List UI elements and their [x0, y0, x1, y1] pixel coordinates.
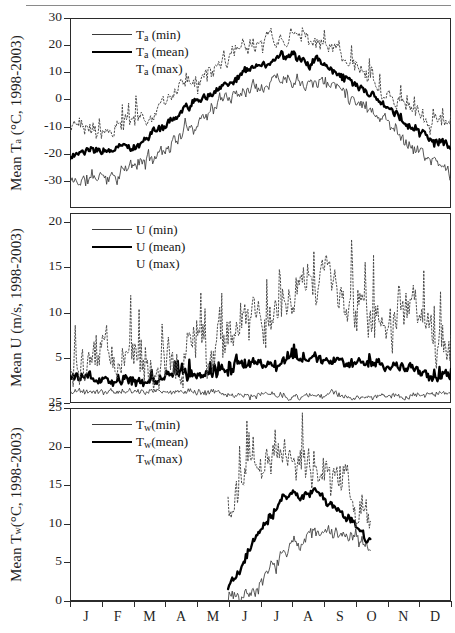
y-tick-label: -20	[26, 145, 62, 161]
legend-label-mean: Tw(mean)	[136, 434, 188, 450]
y-tick-label: 10	[26, 515, 62, 531]
legend-ta: Ta (min)Ta (mean)Ta (max)	[92, 27, 188, 78]
legend-label-mean: Ta (mean)	[136, 44, 188, 60]
legend-swatch-min-icon	[92, 424, 132, 425]
y-tick-label: 0	[26, 90, 62, 106]
panel-air-temperature: Ta (min)Ta (mean)Ta (max)	[70, 18, 451, 208]
legend-entry-max: U (max)	[92, 256, 185, 271]
x-month-label-3: M	[143, 609, 155, 625]
x-month-label-7: J	[274, 609, 279, 625]
y-tick-label: -30	[26, 172, 62, 188]
x-tick-mark	[102, 601, 103, 607]
x-tick-mark	[197, 601, 198, 607]
y-tick-label: 5	[26, 553, 62, 569]
legend-label-mean: U (mean)	[136, 239, 185, 255]
series-line-thin	[70, 388, 451, 401]
legend-label-subscript: w	[144, 456, 151, 467]
legend-swatch-mean-icon	[92, 441, 132, 443]
y-tick-label: -10	[26, 118, 62, 134]
legend-label-min: Tw(min)	[136, 417, 180, 433]
legend-label-subscript: a	[144, 66, 148, 77]
legend-label-min: U (min)	[136, 222, 178, 238]
legend-label-subscript: a	[144, 49, 148, 60]
y-tick-label: 20	[26, 438, 62, 454]
legend-entry-mean: Tw(mean)	[92, 434, 188, 449]
y-tick-label: 20	[26, 36, 62, 52]
y-axis-label-tw: Mean Tw(°C, 1998-2003)	[8, 408, 26, 601]
legend-label-subscript: w	[144, 439, 151, 450]
legend-entry-max: Ta (max)	[92, 61, 188, 76]
legend-entry-min: Ta (min)	[92, 27, 188, 42]
x-month-label-12: D	[430, 609, 440, 625]
series-line-thin	[70, 74, 451, 186]
legend-label-max: Tw(max)	[136, 451, 182, 467]
x-month-label-9: S	[336, 609, 344, 625]
legend-tw: Tw(min)Tw(mean)Tw(max)	[92, 417, 188, 468]
x-axis: JFMAMJJASOND	[70, 601, 451, 633]
x-tick-mark	[419, 601, 420, 607]
series-line-thick	[228, 488, 370, 589]
x-tick-mark	[134, 601, 135, 607]
y-axis-label-subscript: a	[12, 139, 23, 144]
series-line-thick	[70, 345, 451, 386]
panel-water-temperature: Tw(min)Tw(mean)Tw(max)	[70, 408, 451, 601]
y-axis-label-u: Mean U (m/s, 1998-2003)	[8, 213, 26, 403]
x-month-label-10: O	[367, 609, 377, 625]
y-tick-label: 5	[26, 349, 62, 365]
legend-entry-min: U (min)	[92, 222, 185, 237]
x-tick-mark	[292, 601, 293, 607]
legend-label-min: Ta (min)	[136, 27, 181, 43]
top-horizontal-rule	[26, 5, 451, 6]
x-month-label-1: J	[83, 609, 88, 625]
x-tick-mark	[356, 601, 357, 607]
x-month-label-8: A	[303, 609, 313, 625]
legend-u: U (min)U (mean)U (max)	[92, 222, 185, 273]
y-tick-label: 25	[26, 399, 62, 415]
x-month-label-4: A	[176, 609, 186, 625]
y-axis-label-ta: Mean Ta (°C, 1998-2003)	[8, 18, 26, 208]
x-tick-mark	[229, 601, 230, 607]
legend-label-max: Ta (max)	[136, 61, 183, 77]
y-tick-label: 15	[26, 258, 62, 274]
legend-entry-min: Tw(min)	[92, 417, 188, 432]
x-tick-mark	[324, 601, 325, 607]
x-tick-mark	[70, 601, 71, 607]
y-tick-label: 30	[26, 9, 62, 25]
x-tick-mark	[261, 601, 262, 607]
y-tick-label: 20	[26, 213, 62, 229]
y-tick-label: 10	[26, 63, 62, 79]
panel-wind-speed: U (min)U (mean)U (max)	[70, 213, 451, 403]
figure-container: Mean Ta (°C, 1998-2003) 3020100-10-20-30…	[0, 0, 455, 633]
legend-label-subscript: w	[144, 422, 151, 433]
legend-swatch-mean-icon	[92, 246, 132, 248]
legend-swatch-min-icon	[92, 229, 132, 230]
y-axis-label-subscript: w	[12, 527, 23, 534]
x-tick-mark	[451, 601, 452, 607]
legend-entry-mean: U (mean)	[92, 239, 185, 254]
y-tick-label: 15	[26, 476, 62, 492]
y-tick-mark	[64, 403, 70, 404]
y-tick-label: 0	[26, 592, 62, 608]
legend-entry-mean: Ta (mean)	[92, 44, 188, 59]
legend-label-max: U (max)	[136, 256, 180, 272]
series-line-dotted	[228, 413, 370, 528]
x-month-label-5: M	[207, 609, 219, 625]
x-month-label-2: F	[114, 609, 122, 625]
legend-swatch-mean-icon	[92, 51, 132, 53]
y-tick-label: 10	[26, 304, 62, 320]
x-month-label-11: N	[398, 609, 408, 625]
legend-entry-max: Tw(max)	[92, 451, 188, 466]
legend-swatch-min-icon	[92, 34, 132, 35]
x-month-label-6: J	[242, 609, 247, 625]
series-line-thin	[228, 525, 370, 601]
x-tick-mark	[388, 601, 389, 607]
legend-label-subscript: a	[144, 32, 148, 43]
x-tick-mark	[165, 601, 166, 607]
